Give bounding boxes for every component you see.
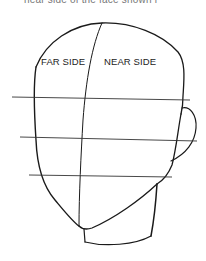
- neck-left: [84, 229, 85, 242]
- far-side-label: FAR SIDE: [41, 56, 85, 67]
- neck-right: [151, 184, 157, 236]
- near-side-contour: [157, 114, 181, 184]
- jaw-line: [79, 184, 157, 229]
- nose-guideline: [20, 137, 197, 141]
- near-side-label: NEAR SIDE: [104, 56, 156, 67]
- far-side-contour: [35, 67, 80, 226]
- neck-bottom: [85, 236, 151, 245]
- brow-guideline: [12, 97, 190, 100]
- head-drawing: [0, 0, 206, 261]
- cranium-outline: [36, 23, 184, 114]
- mouth-guideline: [29, 175, 172, 177]
- center-line: [79, 23, 102, 226]
